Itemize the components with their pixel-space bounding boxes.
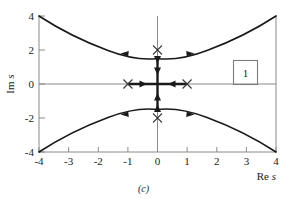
x-tick-label-4: 4 [273, 155, 279, 167]
y-tick-labels: 4 2 0 -2 -4 [25, 10, 35, 158]
arrow-imag-axis-up-outer [154, 105, 161, 113]
y-tick-label-4: 4 [29, 10, 35, 22]
x-tick-marks [39, 147, 276, 152]
y-tick-label-2: 2 [29, 44, 35, 56]
x-tick-label-2: 2 [214, 155, 220, 167]
y-tick-label--2: -2 [25, 112, 34, 124]
figure-caption: (c) [138, 183, 150, 195]
arrow-imag-axis-up-inner [154, 93, 161, 101]
root-locus-figure: -4 -3 -2 -1 0 1 2 3 4 4 2 0 -2 -4 Im s R… [0, 0, 287, 199]
y-axis-title-text: Im [4, 79, 16, 94]
y-axis-title: Im s [4, 74, 16, 93]
x-tick-label-0: 0 [155, 155, 161, 167]
x-axis-title: Re s [257, 170, 276, 182]
arrow-real-axis-right [140, 81, 148, 88]
arrow-imag-axis-down-inner [154, 68, 161, 76]
x-axis-title-text: Re [257, 170, 272, 182]
x-tick-label--2: -2 [94, 155, 103, 167]
x-tick-label--3: -3 [64, 155, 74, 167]
y-tick-marks [39, 16, 45, 152]
x-tick-label-1: 1 [184, 155, 190, 167]
y-tick-label--4: -4 [25, 146, 35, 158]
arrow-imag-axis-down-outer [154, 56, 161, 64]
legend-label: 1 [243, 67, 249, 79]
arrow-real-axis-left [168, 81, 176, 88]
x-tick-label--1: -1 [123, 155, 132, 167]
legend-box-group[interactable]: 1 [234, 61, 258, 85]
root-locus-plot: -4 -3 -2 -1 0 1 2 3 4 4 2 0 -2 -4 Im s R… [0, 0, 287, 199]
x-tick-labels: -4 -3 -2 -1 0 1 2 3 4 [34, 155, 279, 167]
y-tick-label-0: 0 [29, 78, 35, 90]
x-tick-label-3: 3 [244, 155, 250, 167]
x-tick-label--4: -4 [34, 155, 44, 167]
